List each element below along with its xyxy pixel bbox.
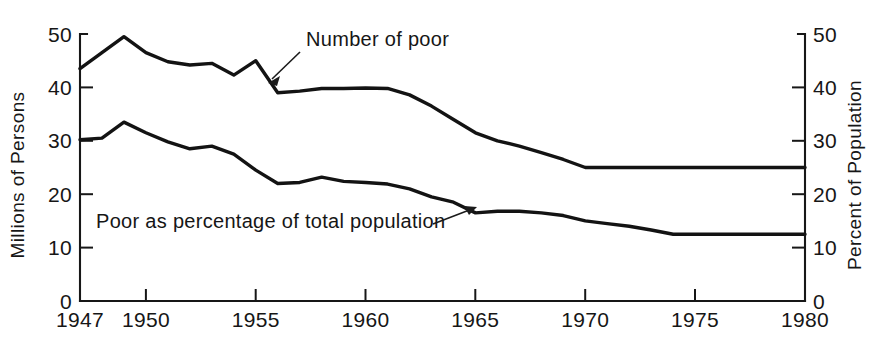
y2-axis-title: Percent of Population — [844, 80, 865, 270]
right-tick-label-40: 40 — [813, 76, 837, 99]
left-tick-label-20: 20 — [48, 183, 72, 206]
x-tick-label-1955: 1955 — [232, 308, 280, 331]
right-tick-label-30: 30 — [813, 129, 837, 152]
right-tick-label-20: 20 — [813, 183, 837, 206]
poverty-line-chart: 50 40 30 20 10 0 Millions of Persons 50 … — [0, 0, 880, 358]
x-tick-label-1980: 1980 — [781, 308, 829, 331]
chart-figure: 50 40 30 20 10 0 Millions of Persons 50 … — [0, 0, 880, 358]
x-tick-label-1965: 1965 — [451, 308, 499, 331]
right-tick-label-50: 50 — [813, 23, 837, 46]
number-of-poor-label: Number of poor — [306, 28, 449, 50]
left-tick-label-50: 50 — [48, 23, 72, 46]
x-tick-label-1975: 1975 — [671, 308, 719, 331]
chart-background — [0, 0, 880, 358]
poor-percentage-label: Poor as percentage of total population — [96, 210, 445, 232]
x-tick-label-1970: 1970 — [561, 308, 609, 331]
right-tick-label-10: 10 — [813, 236, 837, 259]
annotation-poor-percentage: Poor as percentage of total population — [96, 206, 477, 232]
x-tick-label-1950: 1950 — [122, 308, 170, 331]
left-tick-label-10: 10 — [48, 236, 72, 259]
x-tick-label-1947: 1947 — [56, 308, 104, 331]
x-tick-label-1960: 1960 — [342, 308, 390, 331]
left-tick-label-30: 30 — [48, 129, 72, 152]
left-tick-label-40: 40 — [48, 76, 72, 99]
y-axis-title: Millions of Persons — [7, 91, 28, 258]
